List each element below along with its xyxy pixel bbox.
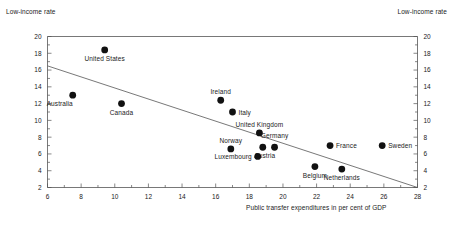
data-point-marker[interactable]	[271, 144, 278, 151]
data-point[interactable]: Norway	[219, 137, 242, 152]
y-tick-label-left: 20	[34, 33, 42, 40]
y-tick-label-right: 18	[424, 50, 432, 57]
x-tick-label: 20	[279, 193, 287, 200]
data-point[interactable]: Netherlands	[324, 166, 361, 181]
data-point-label: France	[336, 142, 357, 149]
data-point-marker[interactable]	[254, 153, 261, 160]
y-tick-label-left: 8	[38, 134, 42, 141]
data-point-label: Ireland	[210, 88, 231, 95]
x-tick-label: 22	[313, 193, 321, 200]
data-point-marker[interactable]	[259, 144, 266, 151]
data-point[interactable]: Ireland	[210, 88, 231, 103]
y-tick-label-left: 6	[38, 150, 42, 157]
data-point-label: Italy	[239, 109, 252, 117]
y-tick-label-right: 20	[424, 33, 432, 40]
data-point[interactable]: France	[327, 142, 358, 149]
data-point-marker[interactable]	[118, 100, 125, 107]
y-tick-label-right: 4	[424, 167, 428, 174]
x-tick-label: 28	[414, 193, 422, 200]
data-point-marker[interactable]	[312, 163, 319, 170]
data-point-marker[interactable]	[379, 142, 386, 149]
data-point-marker[interactable]	[229, 109, 236, 116]
y-tick-label-left: 12	[34, 100, 42, 107]
scatter-chart: Low-income rate Low-income rate Public t…	[0, 0, 454, 227]
y-tick-label-right: 6	[424, 150, 428, 157]
y-tick-label-left: 14	[34, 83, 42, 90]
x-tick-label: 26	[380, 193, 388, 200]
data-points-layer: AustraliaUnited StatesCanadaIrelandItaly…	[47, 47, 413, 182]
data-point[interactable]: Sweden	[379, 142, 413, 149]
data-point-marker[interactable]	[338, 166, 345, 173]
data-point-marker[interactable]	[101, 47, 108, 54]
y-tick-label-left: 2	[38, 184, 42, 191]
data-point-label: Germany	[261, 132, 289, 140]
y-tick-label-right: 2	[424, 184, 428, 191]
data-point-marker[interactable]	[217, 97, 224, 104]
data-point-label: Netherlands	[324, 174, 361, 181]
data-point-label: Luxembourg	[215, 153, 252, 161]
y-tick-label-left: 18	[34, 50, 42, 57]
y-tick-label-left: 16	[34, 66, 42, 73]
data-point[interactable]: Australia	[47, 92, 77, 107]
data-point[interactable]: Canada	[110, 100, 134, 115]
x-tick-label: 10	[111, 193, 119, 200]
data-point-marker[interactable]	[69, 92, 76, 99]
data-point-label: Australia	[47, 100, 73, 107]
y-tick-label-right: 12	[424, 100, 432, 107]
x-tick-label: 12	[145, 193, 153, 200]
trend-line	[48, 66, 418, 188]
data-point[interactable]: Italy	[229, 109, 251, 117]
data-point-label: United States	[85, 55, 126, 62]
data-point-label: Norway	[219, 137, 242, 145]
data-point-marker[interactable]	[227, 146, 234, 153]
x-tick-label: 24	[347, 193, 355, 200]
x-tick-label: 16	[212, 193, 220, 200]
trendline	[48, 66, 418, 188]
y-tick-label-right: 10	[424, 117, 432, 124]
x-tick-label: 6	[46, 193, 50, 200]
data-point-label: United Kingdom	[236, 121, 284, 129]
data-point[interactable]: United States	[85, 47, 126, 62]
y-tick-label-left: 10	[34, 117, 42, 124]
data-point-label: Canada	[110, 109, 134, 116]
y-tick-label-right: 16	[424, 66, 432, 73]
y-tick-label-left: 4	[38, 167, 42, 174]
data-point-marker[interactable]	[327, 142, 334, 149]
y-tick-label-right: 8	[424, 134, 428, 141]
x-tick-label: 18	[246, 193, 254, 200]
y-tick-label-right: 14	[424, 83, 432, 90]
x-tick-label: 14	[178, 193, 186, 200]
plot-area: 6810121416182022242628224466881010121214…	[0, 0, 454, 227]
data-point-label: Sweden	[388, 142, 412, 149]
x-tick-label: 8	[79, 193, 83, 200]
